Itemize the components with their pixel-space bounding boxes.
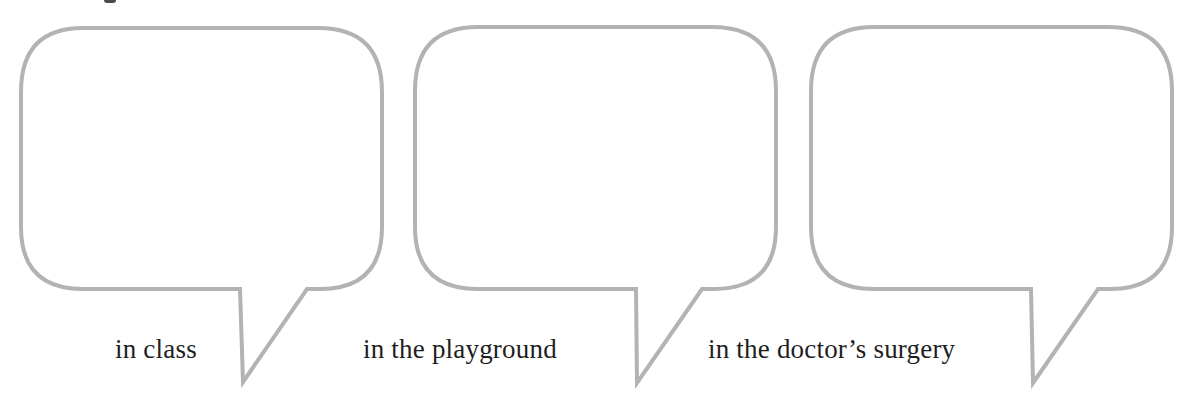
worksheet-page: in class in the playground in the doctor…: [0, 0, 1186, 398]
speech-bubble-3[interactable]: [811, 27, 1172, 383]
speech-bubble-1[interactable]: [21, 28, 382, 382]
caption-in-the-playground: in the playground: [363, 332, 557, 366]
speech-bubble-2[interactable]: [415, 27, 776, 383]
caption-in-class: in class: [115, 332, 197, 366]
caption-in-the-doctors-surgery: in the doctor’s surgery: [708, 332, 955, 366]
